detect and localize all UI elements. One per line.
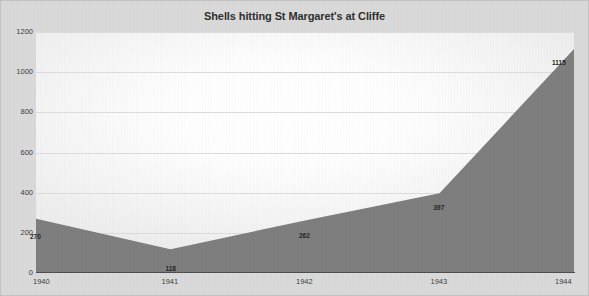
y-axis: 020040060080010001200: [1, 32, 33, 273]
x-tick-label: 1944: [555, 277, 572, 286]
data-point-label: 262: [299, 232, 310, 239]
y-tick-label: 200: [3, 229, 33, 237]
x-tick-label: 1941: [162, 277, 179, 286]
y-tick-label: 400: [3, 189, 33, 197]
chart-container: Shells hitting St Margaret's at Cliffe 0…: [0, 0, 589, 296]
data-point-label: 1115: [552, 59, 566, 66]
y-tick-label: 0: [3, 269, 33, 277]
x-tick-label: 1943: [431, 277, 448, 286]
data-point-label: 397: [434, 204, 445, 211]
x-tick-label: 1940: [33, 277, 50, 286]
y-tick-label: 1200: [3, 28, 33, 36]
data-point-label: 118: [166, 265, 177, 272]
x-tick-label: 1942: [296, 277, 313, 286]
y-tick-label: 600: [3, 149, 33, 157]
x-axis-line: [36, 272, 575, 273]
y-tick-label: 1000: [3, 68, 33, 76]
chart-title: Shells hitting St Margaret's at Cliffe: [1, 10, 588, 22]
x-axis: 19401941194219431944: [1, 277, 589, 291]
y-tick-label: 800: [3, 108, 33, 116]
